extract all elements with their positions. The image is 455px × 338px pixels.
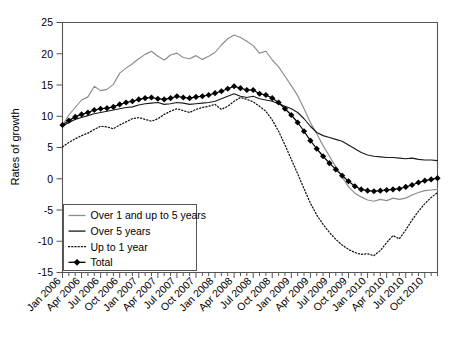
data-point-marker [98, 106, 104, 112]
y-tick-label: 0 [47, 173, 53, 185]
data-point-marker [256, 91, 262, 97]
data-point-marker [129, 98, 135, 104]
data-point-marker [193, 94, 199, 100]
y-tick-label: -10 [38, 235, 53, 247]
data-point-marker [206, 92, 212, 98]
chart-legend: Over 1 and up to 5 yearsOver 5 yearsUp t… [64, 205, 207, 271]
data-point-marker [428, 176, 434, 182]
legend-item-label: Over 5 years [91, 225, 151, 237]
data-point-marker [384, 187, 390, 193]
series-markers-total [59, 83, 440, 194]
series-line-over-1-and-up-to-5-years [63, 35, 438, 201]
data-point-marker [377, 188, 383, 194]
data-point-marker [174, 93, 180, 99]
data-point-marker [225, 86, 231, 92]
data-point-marker [142, 95, 148, 101]
y-axis-title-text: Rates of growth [9, 108, 21, 185]
data-point-marker [250, 87, 256, 93]
data-point-marker [364, 188, 370, 194]
data-point-marker [422, 178, 428, 184]
chart-figure: Rates of growth -15-10-50510152025 Jan 2… [0, 0, 455, 338]
data-point-marker [403, 184, 409, 190]
data-point-marker [117, 101, 123, 107]
legend-item-label: Up to 1 year [91, 241, 149, 253]
data-point-marker [123, 99, 129, 105]
y-axis-title: Rates of growth [9, 108, 21, 185]
y-tick-label: 10 [41, 110, 53, 122]
y-axis: -15-10-50510152025 [38, 16, 63, 278]
y-tick-label: -5 [44, 204, 53, 216]
data-point-marker [434, 175, 440, 181]
rates-of-growth-line-chart: Rates of growth -15-10-50510152025 Jan 2… [0, 0, 455, 338]
data-point-marker [231, 83, 237, 89]
data-point-marker [409, 182, 415, 188]
y-tick-label: -15 [38, 266, 53, 278]
data-point-marker [136, 96, 142, 102]
y-tick-label: 5 [47, 141, 53, 153]
data-point-marker [263, 92, 269, 98]
data-point-marker [167, 95, 173, 101]
legend-item-label: Over 1 and up to 5 years [91, 209, 207, 221]
y-tick-label: 25 [41, 16, 53, 28]
x-axis-labels: Jan 2006Apr 2006Jul 2006Oct 2006Jan 2007… [24, 274, 425, 313]
data-point-marker [161, 96, 167, 102]
legend-item-label: Total [91, 256, 113, 268]
data-point-marker [212, 90, 218, 96]
data-point-marker [371, 188, 377, 194]
data-point-marker [180, 94, 186, 100]
data-point-marker [358, 186, 364, 192]
y-tick-label: 20 [41, 48, 53, 60]
data-point-marker [187, 95, 193, 101]
data-point-marker [199, 93, 205, 99]
data-point-marker [148, 94, 154, 100]
data-point-marker [91, 107, 97, 113]
series-line-total [63, 86, 438, 191]
data-point-marker [218, 88, 224, 94]
data-point-marker [415, 179, 421, 185]
y-tick-label: 15 [41, 79, 53, 91]
data-point-marker [244, 87, 250, 93]
data-point-marker [390, 186, 396, 192]
data-point-marker [396, 186, 402, 192]
data-point-marker [155, 96, 161, 102]
data-point-marker [237, 85, 243, 91]
